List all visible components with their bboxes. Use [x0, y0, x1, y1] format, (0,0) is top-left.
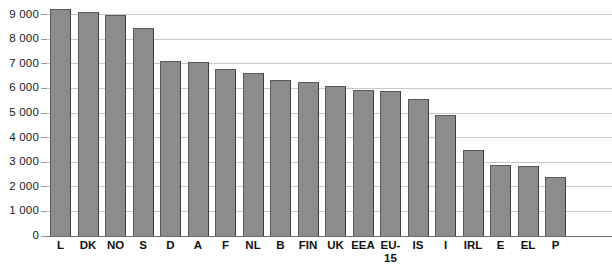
bar [160, 61, 181, 236]
bar [545, 177, 566, 236]
x-axis-labels: LDKNOSDAFNLBFINUKEEAEU-15ISIIRLEELP [0, 239, 612, 273]
bars-group [0, 0, 612, 273]
bar [105, 15, 126, 236]
bar [490, 165, 511, 236]
bar [435, 115, 456, 236]
bar [243, 73, 264, 236]
bar [325, 86, 346, 236]
bar [463, 150, 484, 236]
bar [353, 90, 374, 236]
bar [188, 62, 209, 236]
bar [133, 28, 154, 236]
bar [78, 12, 99, 236]
bar [50, 9, 71, 236]
bar [298, 82, 319, 236]
x-axis-tick-label: P [536, 239, 576, 252]
bar [408, 99, 429, 236]
bar [215, 69, 236, 236]
bar [270, 80, 291, 236]
bar-chart: 01 0002 0003 0004 0005 0006 0007 0008 00… [0, 0, 612, 273]
bar [518, 166, 539, 236]
bar [380, 91, 401, 236]
